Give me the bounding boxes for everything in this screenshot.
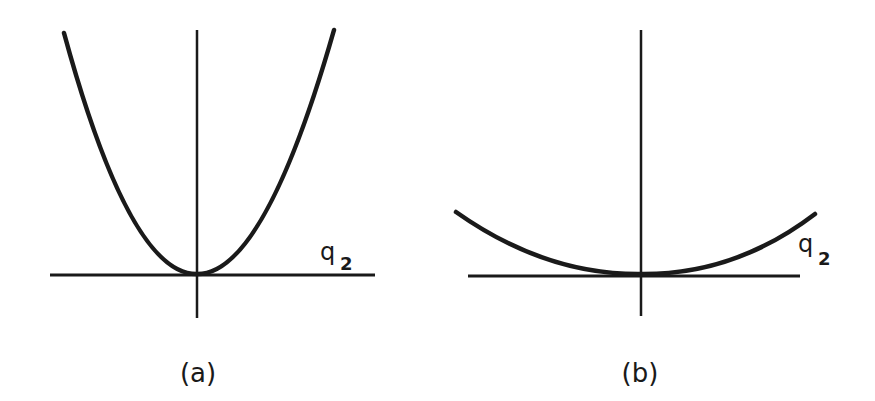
panel-a-axis-label: q (320, 238, 335, 266)
panel-b-caption: (b) (622, 358, 659, 388)
panel-a: q 2 (a) (50, 30, 375, 388)
panel-b: q 2 (b) (456, 30, 831, 388)
panel-b-axis-subscript: 2 (818, 248, 831, 269)
panel-b-shallow-parabola (456, 212, 815, 274)
panel-a-steep-parabola (64, 30, 334, 274)
panel-a-axis-subscript: 2 (340, 253, 353, 274)
diagram-canvas: q 2 (a) q 2 (b) (0, 0, 875, 401)
panel-a-caption: (a) (180, 358, 216, 388)
panel-b-axis-label: q (798, 230, 813, 258)
